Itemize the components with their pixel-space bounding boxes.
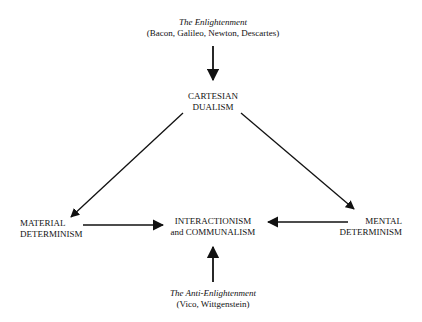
node-interactionism: INTERACTIONISM and COMMUNALISM bbox=[163, 216, 263, 238]
cartesian-line1: CARTESIAN bbox=[163, 91, 263, 102]
material-line1: MATERIAL bbox=[20, 218, 83, 229]
cartesian-line2: DUALISM bbox=[163, 102, 263, 113]
node-enlightenment: The Enlightenment (Bacon, Galileo, Newto… bbox=[113, 17, 313, 39]
node-material-determinism: MATERIAL DETERMINISM bbox=[20, 218, 83, 240]
arrow-cartesian-to-mental bbox=[241, 113, 354, 209]
node-mental-determinism: MENTAL DETERMINISM bbox=[340, 216, 403, 238]
node-cartesian-dualism: CARTESIAN DUALISM bbox=[163, 91, 263, 113]
material-line2: DETERMINISM bbox=[20, 229, 83, 240]
interaction-line1: INTERACTIONISM bbox=[163, 216, 263, 227]
arrows-layer bbox=[0, 0, 422, 322]
mental-line2: DETERMINISM bbox=[340, 227, 403, 238]
enlightenment-subtitle: (Bacon, Galileo, Newton, Descartes) bbox=[113, 28, 313, 39]
anti-enlightenment-subtitle: (Vico, Wittgenstein) bbox=[143, 299, 283, 310]
node-anti-enlightenment: The Anti-Enlightenment (Vico, Wittgenste… bbox=[143, 288, 283, 310]
anti-enlightenment-title: The Anti-Enlightenment bbox=[143, 288, 283, 299]
mental-line1: MENTAL bbox=[340, 216, 403, 227]
enlightenment-title: The Enlightenment bbox=[113, 17, 313, 28]
interaction-line2: and COMMUNALISM bbox=[163, 227, 263, 238]
arrow-cartesian-to-material bbox=[71, 113, 183, 217]
